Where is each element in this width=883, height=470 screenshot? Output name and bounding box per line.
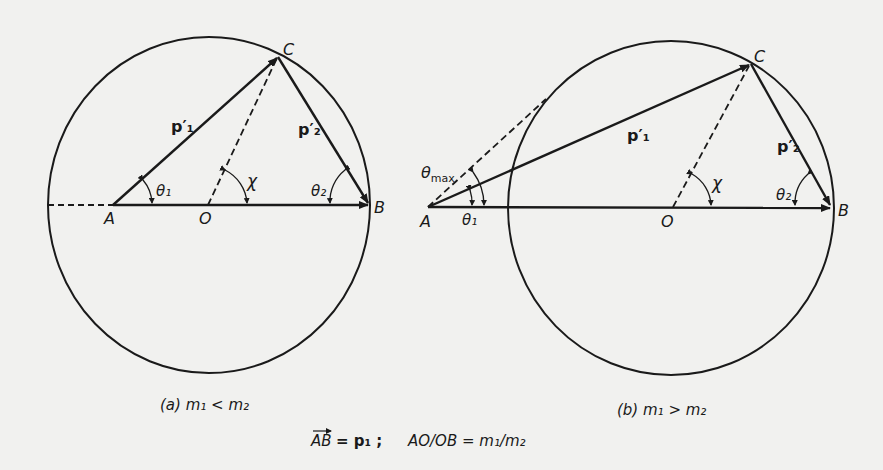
vector-ab-b (428, 207, 830, 208)
figure-a: C A O B p′₁ p′₂ θ₁ χ θ₂ (a) m₁ < m₂ (48, 37, 385, 414)
caption-a: (a) m₁ < m₂ (160, 396, 249, 414)
vector-label-p1-prime-b: p′₁ (627, 126, 650, 145)
angle-arc-theta-max-b (473, 172, 484, 205)
dashed-radius-oc-b (673, 66, 749, 207)
vector-label-p2-prime-a: p′₂ (298, 120, 321, 139)
angle-arc-theta1-a (143, 180, 152, 203)
point-label-o-a: O (199, 209, 212, 228)
legend-ab-equals: = p₁ ; (336, 432, 382, 450)
angle-label-theta1-b: θ₁ (462, 211, 477, 229)
angle-label-chi-a: χ (246, 171, 258, 191)
angle-arc-theta2-a (330, 170, 345, 203)
figure-b: C A O B p′₁ p′₂ θmax θ₁ χ θ₂ (b) m₁ > m₂ (419, 41, 849, 419)
angle-label-theta-max-b: θmax (421, 163, 455, 185)
point-label-c-b: C (754, 47, 766, 66)
point-label-c-a: C (283, 40, 295, 59)
legend: AB = p₁ ; AO/OB = m₁/m₂ (310, 431, 526, 450)
dashed-tangent-b (428, 99, 546, 207)
angle-label-theta2-a: θ₂ (311, 182, 326, 200)
angle-arc-chi-a (225, 170, 247, 203)
dashed-radius-oc-a (208, 58, 277, 205)
vector-label-p1-prime-a: p′₁ (171, 117, 194, 136)
point-label-b-b: B (838, 201, 849, 220)
legend-ab-vector: AB (310, 432, 332, 450)
point-label-a-a: A (103, 209, 115, 228)
point-label-a-b: A (419, 212, 431, 231)
point-label-o-b: O (661, 212, 674, 231)
angle-arc-theta2-b (795, 174, 808, 205)
angle-label-chi-b: χ (711, 173, 723, 193)
theta-max-subscript: max (431, 172, 455, 185)
point-label-b-a: B (374, 198, 385, 217)
vector-p1-prime-b (428, 65, 749, 207)
caption-b: (b) m₁ > m₂ (617, 401, 706, 419)
vector-label-p2-prime-b: p′₂ (777, 137, 800, 156)
angle-label-theta1-a: θ₁ (156, 182, 171, 200)
angle-arc-theta1-b (470, 190, 472, 205)
angle-arc-chi-b (692, 174, 711, 205)
legend-ratio: AO/OB = m₁/m₂ (407, 432, 526, 450)
collision-diagram: C A O B p′₁ p′₂ θ₁ χ θ₂ (a) m₁ < m₂ C A … (0, 0, 883, 470)
angle-label-theta2-b: θ₂ (776, 186, 791, 204)
